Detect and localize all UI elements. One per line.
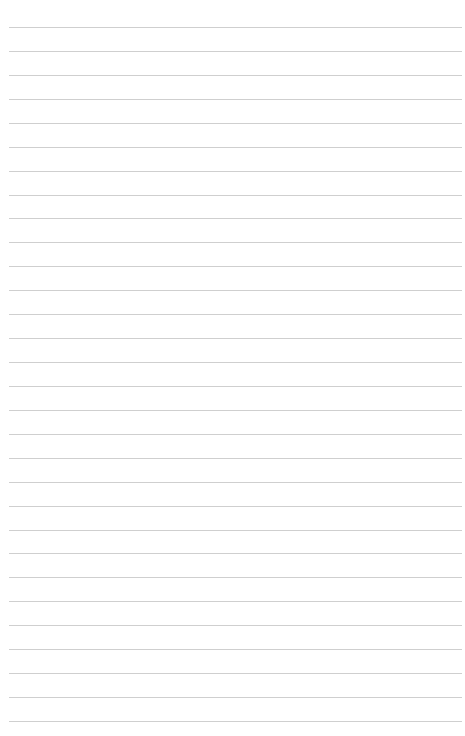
ruled-line [9, 530, 462, 531]
lined-paper-page [0, 0, 465, 736]
ruled-line [9, 625, 462, 626]
ruled-line [9, 338, 462, 339]
ruled-line [9, 697, 462, 698]
ruled-line [9, 123, 462, 124]
ruled-line [9, 290, 462, 291]
ruled-line [9, 195, 462, 196]
ruled-line [9, 242, 462, 243]
ruled-line [9, 721, 462, 722]
ruled-line [9, 482, 462, 483]
ruled-line [9, 673, 462, 674]
ruled-line [9, 601, 462, 602]
ruled-line [9, 553, 462, 554]
ruled-line [9, 577, 462, 578]
ruled-line [9, 362, 462, 363]
ruled-line [9, 314, 462, 315]
ruled-line [9, 51, 462, 52]
ruled-line [9, 27, 462, 28]
ruled-line [9, 386, 462, 387]
ruled-line [9, 75, 462, 76]
ruled-line [9, 649, 462, 650]
ruled-line [9, 410, 462, 411]
ruled-line [9, 266, 462, 267]
ruled-line [9, 147, 462, 148]
ruled-line [9, 218, 462, 219]
ruled-line [9, 506, 462, 507]
ruled-line [9, 99, 462, 100]
ruled-line [9, 171, 462, 172]
ruled-line [9, 434, 462, 435]
ruled-line [9, 458, 462, 459]
